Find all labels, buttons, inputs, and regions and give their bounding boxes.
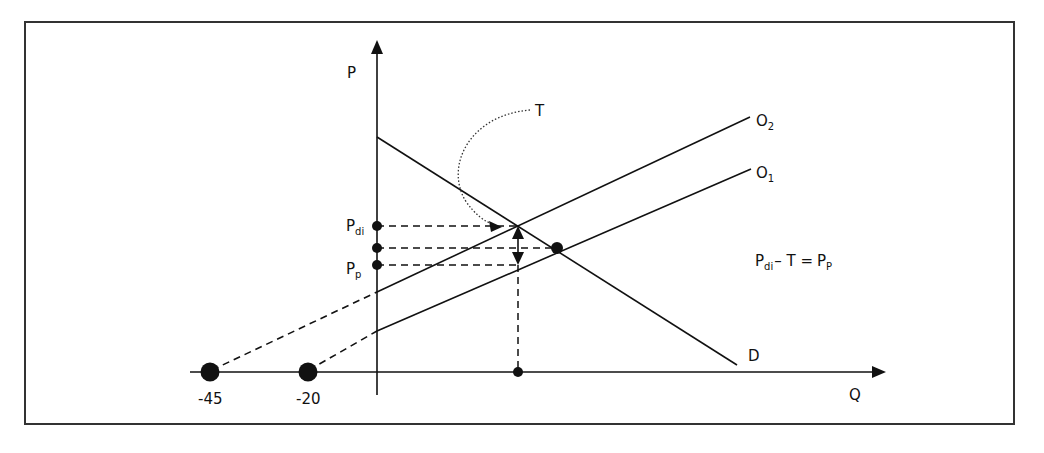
supply-curve-o2-extension (212, 292, 377, 370)
p-axis-arrow-icon (371, 40, 383, 54)
pp-label: Pp (346, 260, 361, 280)
pp-point (372, 260, 382, 270)
tax-wedge-down-arrow-icon (512, 252, 524, 265)
o2-intercept-point (201, 363, 220, 382)
tax-equation: Pdi– T =PP (755, 252, 832, 272)
o2-label: O2 (756, 112, 774, 132)
tax-incidence-diagram: P Q D O2 O1 Pdi Pp T Pdi– T =PP -45 -20 (0, 0, 1044, 453)
o1-intercept-label: -20 (296, 390, 321, 408)
tax-label: T (534, 102, 545, 120)
pdi-point (372, 221, 382, 231)
pdi-label: Pdi (346, 217, 364, 237)
supply-curve-o1 (377, 169, 751, 331)
pre-tax-equilibrium-point (551, 242, 563, 254)
q-axis-label: Q (849, 386, 861, 404)
demand-label: D (748, 347, 760, 365)
o1-label: O1 (756, 164, 774, 184)
o1-intercept-point (299, 363, 318, 382)
q-axis (190, 366, 886, 378)
o2-intercept-label: -45 (198, 390, 223, 408)
tax-curved-arrow (458, 110, 530, 225)
p-axis-label: P (347, 64, 356, 82)
tax-curved-arrowhead-icon (489, 221, 502, 232)
supply-curve-o1-extension (309, 331, 377, 370)
p-axis (371, 40, 383, 395)
figure-frame (25, 22, 1014, 424)
supply-curve-o2 (377, 117, 750, 292)
post-tax-quantity-point (513, 367, 523, 377)
q-axis-arrow-icon (872, 366, 886, 378)
equilibrium-price-point (372, 243, 382, 253)
